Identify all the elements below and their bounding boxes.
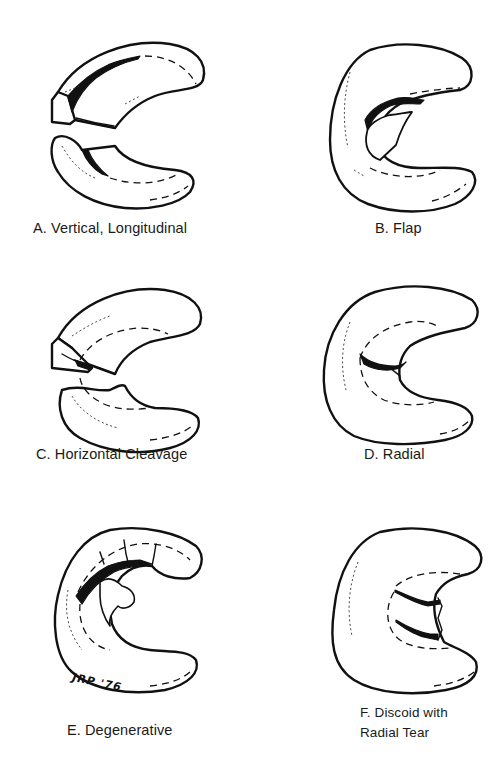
panel-radial: D. Radial [250,250,500,500]
panel-label-line1: F. Discoid with [360,703,448,723]
panel-flap: B. Flap [250,0,500,250]
panel-label-vertical-longitudinal: A. Vertical, Longitudinal [33,220,187,236]
meniscus-flap-illustration [250,0,500,250]
panel-label-discoid-radial-tear: F. Discoid with Radial Tear [360,703,448,743]
panel-label-degenerative: E. Degenerative [67,722,172,738]
meniscus-horizontal-cleavage-illustration [0,250,250,500]
panel-horizontal-cleavage: C. Horizontal Cleavage [0,250,250,500]
panel-label-horizontal-cleavage: C. Horizontal Cleavage [36,446,187,462]
panel-discoid-radial-tear: F. Discoid with Radial Tear [250,500,500,762]
panel-label-radial: D. Radial [364,446,425,462]
panel-vertical-longitudinal: A. Vertical, Longitudinal [0,0,250,250]
meniscus-radial-illustration [250,250,500,500]
panel-label-flap: B. Flap [375,220,422,236]
meniscus-vertical-longitudinal-illustration [0,0,250,250]
panel-degenerative: JRP '76 E. Degenerative [0,500,250,762]
panel-label-line2: Radial Tear [360,723,448,743]
